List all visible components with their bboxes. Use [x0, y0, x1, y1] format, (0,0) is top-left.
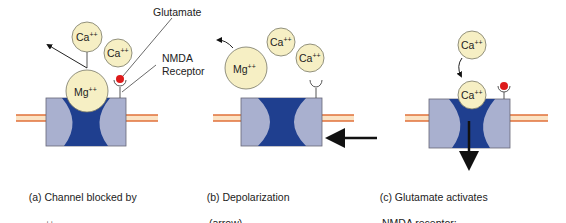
- nmda-label-line1: NMDA: [162, 52, 193, 64]
- caption-c-line1: (c) Glutamate activates: [380, 191, 488, 203]
- ca-ion-c1: Ca++: [458, 31, 486, 59]
- caption-c: (c) Glutamate activates NMDA receptor; C…: [368, 178, 488, 223]
- mg-ion-a: Mg++: [66, 70, 108, 112]
- mg-release-arrow-b: [218, 40, 233, 48]
- nmda-receptor-a: [114, 75, 126, 98]
- ca-ion-b2: Ca++: [296, 44, 324, 72]
- channel-b: [241, 98, 322, 146]
- caption-b: (b) Depolarization (arrow): [195, 178, 290, 223]
- nmda-receptor-diagram: Glutamate NMDA Receptor Ca++ Ca++ Mg++: [0, 0, 566, 223]
- ca-ion-b1: Ca++: [267, 28, 295, 56]
- glutamate-molecule: [116, 75, 124, 83]
- caption-a-line2: Mg++: [17, 217, 137, 223]
- glutamate-molecule-c: [500, 82, 508, 90]
- caption-c-line2: NMDA receptor;: [368, 217, 488, 223]
- panel-a: Glutamate NMDA Receptor Ca++ Ca++ Mg++: [16, 6, 205, 146]
- caption-b-line2: (arrow): [195, 217, 290, 223]
- caption-a-line1: (a) Channel blocked by: [29, 191, 137, 203]
- ca-ion-c2: Ca++: [458, 81, 486, 109]
- nmda-pointer: [122, 65, 156, 92]
- nmda-receptor-b: [310, 80, 322, 98]
- mg-ion-b: Mg++: [225, 47, 267, 89]
- panel-b: Mg++ Ca++ Ca++: [213, 28, 377, 146]
- caption-b-line1: (b) Depolarization: [207, 191, 290, 203]
- nmda-receptor-c: [498, 82, 510, 99]
- caption-a: (a) Channel blocked by Mg++: [17, 178, 137, 223]
- ca-ion-a2: Ca++: [104, 39, 132, 67]
- ca-ion-a1: Ca++: [72, 22, 102, 52]
- glutamate-label: Glutamate: [153, 6, 202, 18]
- ca-entry-arrow: [459, 58, 462, 76]
- panel-c: Ca++ Ca++: [405, 31, 548, 166]
- nmda-label-line2: Receptor: [162, 65, 205, 77]
